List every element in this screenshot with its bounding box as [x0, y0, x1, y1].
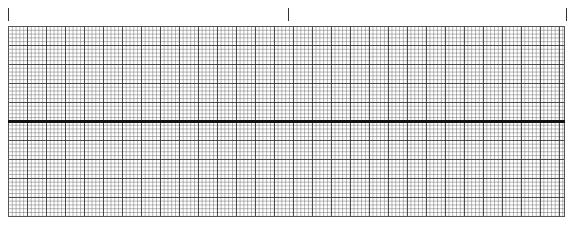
time-marker-tick-middle	[288, 8, 289, 21]
time-marker-tick-end	[566, 8, 567, 21]
flat-baseline-trace	[8, 120, 565, 123]
time-marker-tick-start	[8, 8, 9, 21]
